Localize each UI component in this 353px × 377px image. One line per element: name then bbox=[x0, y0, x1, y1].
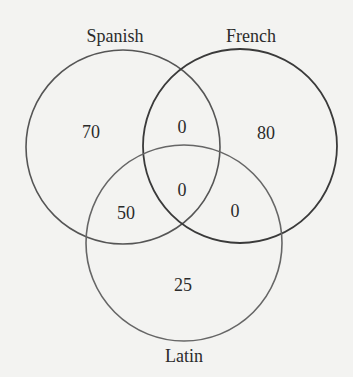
venn-svg: Spanish French Latin 70 0 80 0 50 0 25 bbox=[0, 0, 353, 377]
spanish-latin-value: 50 bbox=[117, 203, 135, 223]
french-latin-value: 0 bbox=[231, 201, 240, 221]
all-three-value: 0 bbox=[178, 180, 187, 200]
venn-diagram: Spanish French Latin 70 0 80 0 50 0 25 bbox=[0, 0, 353, 377]
spanish-french-value: 0 bbox=[178, 117, 187, 137]
french-only-value: 80 bbox=[257, 123, 275, 143]
spanish-only-value: 70 bbox=[82, 122, 100, 142]
latin-only-value: 25 bbox=[174, 275, 192, 295]
latin-label: Latin bbox=[165, 346, 203, 366]
spanish-label: Spanish bbox=[86, 26, 143, 46]
french-label: French bbox=[226, 26, 276, 46]
